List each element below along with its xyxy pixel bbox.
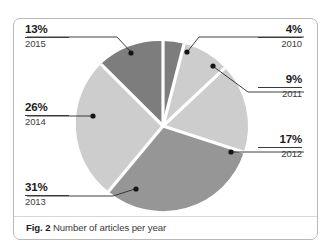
leader-dot-2015 (128, 50, 133, 55)
callout-2010-year: 2010 (258, 39, 302, 49)
callout-2010-percent: 4% (258, 24, 302, 36)
callout-2013: 31% 2013 (25, 182, 69, 206)
figure-container: 13% 2015 26% 2014 31% 2013 4% 2010 9% 20… (0, 0, 331, 251)
callout-2013-year: 2013 (25, 197, 69, 207)
figure-caption: Fig. 2 Number of articles per year (26, 223, 306, 234)
leader-dot-2014 (90, 113, 95, 118)
callout-2011: 9% 2011 (258, 74, 302, 98)
leader-dot-2011 (210, 63, 215, 68)
callout-2011-year: 2011 (258, 89, 302, 99)
callout-2014-percent: 26% (25, 102, 69, 114)
callout-2012-percent: 17% (258, 134, 302, 146)
callout-2015-year: 2015 (25, 39, 69, 49)
leader-dot-2013 (133, 186, 138, 191)
callout-2013-percent: 31% (25, 182, 69, 194)
callout-2015-percent: 13% (25, 24, 69, 36)
leader-dot-2012 (228, 149, 233, 154)
callout-2010: 4% 2010 (258, 24, 302, 48)
figure-caption-label: Fig. 2 (26, 222, 50, 233)
caption-divider (14, 216, 317, 217)
callout-2012: 17% 2012 (258, 134, 302, 158)
callout-2014-year: 2014 (25, 117, 69, 127)
callout-2015: 13% 2015 (25, 24, 69, 48)
callout-2014: 26% 2014 (25, 102, 69, 126)
callout-2012-year: 2012 (258, 149, 302, 159)
callout-2011-percent: 9% (258, 74, 302, 86)
leader-dot-2010 (184, 49, 189, 54)
figure-caption-text: Number of articles per year (53, 222, 166, 233)
